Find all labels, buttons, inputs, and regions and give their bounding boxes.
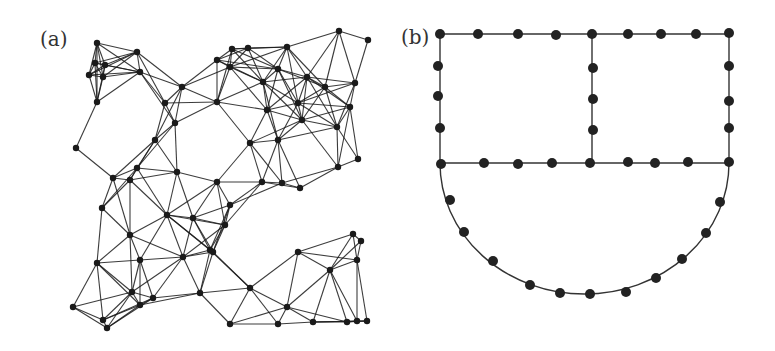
network-edge — [230, 67, 263, 82]
network-edge — [278, 103, 298, 140]
network-edge — [250, 110, 267, 143]
network-node — [297, 185, 303, 191]
network-node — [150, 295, 156, 301]
network-edge — [177, 172, 193, 218]
network-node — [129, 289, 135, 295]
boundary-node — [525, 280, 535, 290]
network-edge — [263, 82, 298, 103]
network-node — [295, 100, 301, 106]
network-edge — [217, 102, 267, 110]
network-edge — [97, 260, 140, 263]
network-edge — [165, 102, 217, 103]
network-edge — [250, 143, 262, 182]
network-node — [227, 64, 233, 70]
network-node — [335, 164, 341, 170]
network-node — [134, 49, 140, 55]
network-node — [355, 156, 361, 162]
semicircle-boundary — [440, 163, 729, 294]
network-edge — [250, 143, 282, 183]
network-node — [310, 319, 316, 325]
boundary-node — [701, 228, 711, 238]
network-edge — [213, 252, 250, 288]
network-edge — [250, 252, 298, 288]
network-edge — [113, 168, 137, 178]
network-a-edges — [73, 31, 368, 328]
network-node — [86, 72, 92, 78]
network-edge — [350, 107, 358, 159]
network-node — [304, 74, 310, 80]
boundary-node — [656, 29, 666, 39]
network-node — [334, 124, 340, 130]
network-node — [100, 317, 106, 323]
network-edge — [307, 31, 339, 77]
network-node — [152, 137, 158, 143]
network-edge — [97, 263, 132, 292]
network-edge — [155, 140, 177, 172]
network-edge — [350, 83, 355, 107]
boundary-node — [445, 195, 455, 205]
network-edge — [167, 172, 177, 215]
network-edge — [355, 40, 368, 83]
boundary-node — [724, 123, 734, 133]
network-node — [259, 179, 265, 185]
network-edge — [177, 172, 217, 182]
network-node — [214, 179, 220, 185]
network-edge — [140, 293, 200, 305]
boundary-node — [513, 159, 523, 169]
network-node — [164, 212, 170, 218]
network-node — [110, 175, 116, 181]
network-node — [275, 137, 281, 143]
network-node — [94, 260, 100, 266]
network-node — [347, 104, 353, 110]
network-edge — [287, 31, 339, 47]
network-node — [245, 45, 251, 51]
network-node — [99, 205, 105, 211]
network-edge — [175, 123, 177, 172]
boundary-node — [691, 29, 701, 39]
network-edge — [137, 52, 182, 87]
boundary-node — [621, 287, 631, 297]
network-node — [344, 319, 350, 325]
network-node — [94, 99, 100, 105]
boundary-node — [623, 29, 633, 39]
network-edge — [330, 270, 357, 321]
boundary-node — [436, 159, 446, 169]
network-edge — [232, 49, 263, 82]
network-edge — [193, 218, 225, 225]
network-node — [180, 254, 186, 260]
boundary-node — [683, 157, 693, 167]
network-edge — [330, 260, 357, 270]
network-edge — [278, 322, 313, 324]
network-edge — [153, 257, 183, 298]
network-node — [174, 169, 180, 175]
network-edge — [250, 288, 278, 324]
boundary-node — [513, 29, 523, 39]
network-edge — [339, 31, 355, 83]
boundary-node — [588, 94, 598, 104]
network-edge — [200, 288, 250, 293]
network-edge — [357, 260, 367, 321]
network-edge — [325, 31, 339, 87]
boundary-node — [724, 157, 734, 167]
network-node — [134, 165, 140, 171]
boundary-node — [677, 254, 687, 264]
boundary-node — [433, 91, 443, 101]
network-edge — [137, 168, 177, 172]
diagram-canvas — [0, 0, 775, 351]
network-node — [247, 140, 253, 146]
network-node — [364, 318, 370, 324]
boundary-node — [551, 30, 561, 40]
boundary-node — [435, 29, 445, 39]
network-edge — [339, 31, 368, 40]
network-edge — [102, 180, 130, 208]
network-edge — [278, 127, 337, 140]
network-node — [354, 257, 360, 263]
network-edge — [167, 182, 217, 215]
network-edge — [300, 167, 338, 188]
boundary-node — [488, 256, 498, 266]
network-node — [227, 202, 233, 208]
network-node — [214, 57, 220, 63]
network-node — [172, 120, 178, 126]
network-node — [214, 99, 220, 105]
network-edge — [155, 123, 175, 140]
